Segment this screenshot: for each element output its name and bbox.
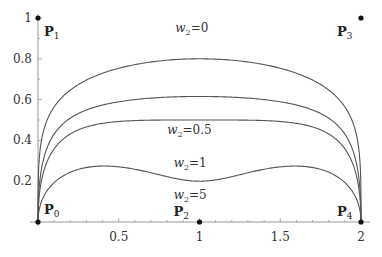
control-point-dot [197,219,202,224]
y-tick-label: 0.4 [13,133,32,147]
curve-label: w2=0 [175,21,208,37]
control-point-label: P4 [337,204,353,221]
labels: P0P1P2P3P4w2=0w2=0.5w2=1w2=5 [44,21,353,221]
y-tick-label: 0.2 [13,174,32,188]
y-tick-label: 0.8 [13,52,32,66]
y-tick-label: 0.6 [13,93,32,107]
control-point-label: P1 [44,24,60,41]
control-point-dot [358,15,363,20]
x-tick-label: 1.5 [271,230,290,244]
x-tick-label: 1 [196,230,204,244]
rational-bezier-plot: 0.511.520.20.40.60.81 P0P1P2P3P4w2=0w2=0… [0,0,382,257]
control-point-dot [358,219,363,224]
x-tick-label: 0.5 [109,230,128,244]
control-point-dot [35,15,40,20]
x-tick-label: 2 [357,230,365,244]
curve-label: w2=5 [174,188,207,204]
control-point-label: P3 [337,24,353,41]
control-point-dot [35,219,40,224]
control-point-label: P2 [174,204,190,221]
control-point-label: P0 [44,202,60,219]
curve-label: w2=0.5 [167,123,212,139]
y-tick-label: 1 [24,11,32,25]
curve-label: w2=1 [174,156,207,172]
